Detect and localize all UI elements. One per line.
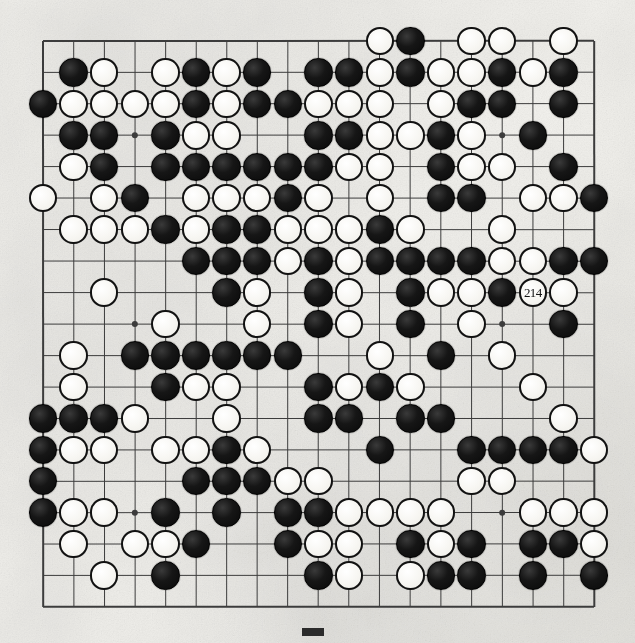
- black-stone[interactable]: [457, 90, 485, 118]
- black-stone[interactable]: [396, 310, 424, 338]
- black-stone[interactable]: [488, 58, 516, 86]
- white-stone[interactable]: [366, 90, 394, 118]
- black-stone[interactable]: [151, 498, 179, 526]
- black-stone[interactable]: [396, 58, 424, 86]
- black-stone[interactable]: [59, 121, 87, 149]
- black-stone[interactable]: [274, 341, 302, 369]
- white-stone[interactable]: [519, 498, 547, 526]
- black-stone[interactable]: [121, 341, 149, 369]
- white-stone[interactable]: [549, 278, 577, 306]
- black-stone[interactable]: [427, 561, 455, 589]
- white-stone[interactable]: [366, 498, 394, 526]
- white-stone[interactable]: [457, 153, 485, 181]
- black-stone[interactable]: [396, 278, 424, 306]
- white-stone[interactable]: [457, 27, 485, 55]
- black-stone[interactable]: [29, 436, 57, 464]
- black-stone[interactable]: [427, 153, 455, 181]
- white-stone[interactable]: [90, 278, 118, 306]
- black-stone[interactable]: [304, 58, 332, 86]
- black-stone[interactable]: [212, 467, 240, 495]
- white-stone[interactable]: [366, 184, 394, 212]
- white-stone[interactable]: [212, 184, 240, 212]
- white-stone[interactable]: [90, 561, 118, 589]
- white-stone[interactable]: [212, 58, 240, 86]
- white-stone[interactable]: [457, 58, 485, 86]
- black-stone[interactable]: [519, 436, 547, 464]
- black-stone[interactable]: [396, 530, 424, 558]
- black-stone[interactable]: [366, 436, 394, 464]
- black-stone[interactable]: [29, 404, 57, 432]
- black-stone[interactable]: [151, 215, 179, 243]
- black-stone[interactable]: [304, 310, 332, 338]
- white-stone[interactable]: [366, 27, 394, 55]
- white-stone[interactable]: [90, 58, 118, 86]
- white-stone[interactable]: [59, 90, 87, 118]
- white-stone[interactable]: [59, 215, 87, 243]
- black-stone[interactable]: [366, 373, 394, 401]
- white-stone[interactable]: [59, 530, 87, 558]
- black-stone[interactable]: [212, 215, 240, 243]
- white-stone[interactable]: [396, 121, 424, 149]
- white-stone[interactable]: [90, 215, 118, 243]
- white-stone[interactable]: [488, 153, 516, 181]
- black-stone[interactable]: [274, 153, 302, 181]
- black-stone[interactable]: [151, 341, 179, 369]
- black-stone[interactable]: [304, 247, 332, 275]
- black-stone[interactable]: [90, 404, 118, 432]
- white-stone[interactable]: [457, 278, 485, 306]
- white-stone[interactable]: [396, 561, 424, 589]
- black-stone[interactable]: [182, 341, 210, 369]
- black-stone[interactable]: [304, 278, 332, 306]
- white-stone[interactable]: [59, 373, 87, 401]
- white-stone[interactable]: [59, 436, 87, 464]
- black-stone[interactable]: [243, 341, 271, 369]
- black-stone[interactable]: [304, 404, 332, 432]
- white-stone[interactable]: [366, 58, 394, 86]
- black-stone[interactable]: [304, 121, 332, 149]
- white-stone[interactable]: [121, 404, 149, 432]
- black-stone[interactable]: [549, 247, 577, 275]
- white-stone[interactable]: [182, 436, 210, 464]
- black-stone[interactable]: [151, 561, 179, 589]
- black-stone[interactable]: [212, 436, 240, 464]
- black-stone[interactable]: [151, 373, 179, 401]
- white-stone[interactable]: [182, 215, 210, 243]
- black-stone[interactable]: [304, 153, 332, 181]
- black-stone[interactable]: [29, 498, 57, 526]
- white-stone[interactable]: [335, 498, 363, 526]
- white-stone[interactable]: 214: [519, 278, 547, 306]
- black-stone[interactable]: [396, 27, 424, 55]
- white-stone[interactable]: [457, 121, 485, 149]
- white-stone[interactable]: [549, 184, 577, 212]
- black-stone[interactable]: [519, 530, 547, 558]
- white-stone[interactable]: [549, 27, 577, 55]
- black-stone[interactable]: [457, 247, 485, 275]
- black-stone[interactable]: [304, 561, 332, 589]
- black-stone[interactable]: [396, 247, 424, 275]
- black-stone[interactable]: [519, 561, 547, 589]
- white-stone[interactable]: [335, 278, 363, 306]
- white-stone[interactable]: [519, 58, 547, 86]
- white-stone[interactable]: [212, 121, 240, 149]
- black-stone[interactable]: [335, 121, 363, 149]
- white-stone[interactable]: [212, 373, 240, 401]
- white-stone[interactable]: [151, 530, 179, 558]
- black-stone[interactable]: [59, 58, 87, 86]
- black-stone[interactable]: [182, 58, 210, 86]
- white-stone[interactable]: [427, 90, 455, 118]
- white-stone[interactable]: [549, 498, 577, 526]
- black-stone[interactable]: [427, 404, 455, 432]
- black-stone[interactable]: [304, 373, 332, 401]
- black-stone[interactable]: [59, 404, 87, 432]
- white-stone[interactable]: [121, 215, 149, 243]
- black-stone[interactable]: [90, 121, 118, 149]
- black-stone[interactable]: [549, 310, 577, 338]
- white-stone[interactable]: [304, 467, 332, 495]
- white-stone[interactable]: [59, 498, 87, 526]
- white-stone[interactable]: [90, 498, 118, 526]
- black-stone[interactable]: [549, 90, 577, 118]
- black-stone[interactable]: [243, 58, 271, 86]
- white-stone[interactable]: [274, 215, 302, 243]
- black-stone[interactable]: [488, 436, 516, 464]
- white-stone[interactable]: [396, 373, 424, 401]
